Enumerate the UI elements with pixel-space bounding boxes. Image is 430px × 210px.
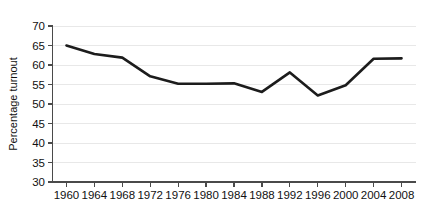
x-tick-label-1980: 1980 <box>193 189 219 201</box>
y-axis-tick-labels-group: 303540455055606570 <box>32 20 45 188</box>
x-tick-label-1996: 1996 <box>305 189 331 201</box>
x-tick-label-1976: 1976 <box>165 189 191 201</box>
chart-container: 303540455055606570 196019641968197219761… <box>0 0 430 210</box>
turnout-line-series <box>66 46 401 96</box>
x-tick-label-1960: 1960 <box>54 189 80 201</box>
y-tick-label-50: 50 <box>32 98 45 110</box>
x-tick-label-2000: 2000 <box>333 189 359 201</box>
y-tick-label-60: 60 <box>32 59 45 71</box>
y-tick-label-45: 45 <box>32 118 45 130</box>
x-tick-label-1968: 1968 <box>110 189 136 201</box>
x-tick-label-2004: 2004 <box>361 189 387 201</box>
x-tick-label-1984: 1984 <box>221 189 247 201</box>
x-tick-label-2008: 2008 <box>389 189 415 201</box>
y-tick-label-55: 55 <box>32 79 45 91</box>
y-tick-label-35: 35 <box>32 157 45 169</box>
y-tick-label-30: 30 <box>32 176 45 188</box>
x-axis-tick-labels-group: 1960196419681972197619801984198819921996… <box>54 189 415 201</box>
y-tick-label-70: 70 <box>32 20 45 32</box>
y-axis-title: Percentage turnout <box>7 57 19 151</box>
x-tick-label-1988: 1988 <box>249 189 275 201</box>
x-tick-label-1992: 1992 <box>277 189 303 201</box>
y-tick-label-65: 65 <box>32 40 45 52</box>
x-tick-label-1972: 1972 <box>137 189 163 201</box>
x-tick-label-1964: 1964 <box>82 189 108 201</box>
line-chart: 303540455055606570 196019641968197219761… <box>0 0 430 210</box>
gridlines-group <box>53 26 416 182</box>
y-tick-label-40: 40 <box>32 137 45 149</box>
